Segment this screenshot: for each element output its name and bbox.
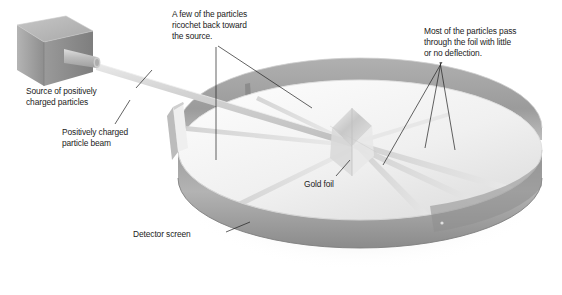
label-particle-beam: Positively charged particle beam [62,127,166,149]
rutherford-experiment-figure: Source of positively charged particles P… [0,0,562,295]
label-gold-foil: Gold foil [304,179,364,190]
label-detector-screen: Detector screen [133,229,225,240]
alpha-particle-source-box [17,16,93,86]
label-most-particles-pass: Most of the particles pass through the f… [424,26,550,60]
label-source-of-particles: Source of positively charged particles [26,86,134,108]
label-ricochet-particles: A few of the particles ricochet back tow… [172,9,284,43]
